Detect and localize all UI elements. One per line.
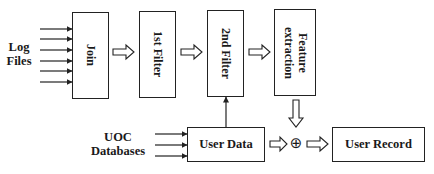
combine-to-user-record-arrow xyxy=(307,137,328,151)
feature-extraction-line-1: Feature xyxy=(296,27,309,79)
log-files-label: Log Files xyxy=(2,40,36,68)
join-label: Join xyxy=(84,44,97,66)
first-filter-box: 1st Filter xyxy=(139,11,176,98)
uoc-databases-label: UOC Databases xyxy=(86,130,150,158)
first-filter-label: 1st Filter xyxy=(151,31,164,77)
first-filter-to-second-filter-arrow xyxy=(181,45,202,59)
feature-extraction-box: Feature extraction xyxy=(274,9,316,96)
join-box: Join xyxy=(72,12,109,99)
log-files-line-2: Files xyxy=(2,54,36,68)
join-to-first-filter-arrow xyxy=(113,45,134,59)
combine-operator-icon: ⊕ xyxy=(288,134,304,152)
user-record-label: User Record xyxy=(345,137,412,152)
feature-extraction-text: Feature extraction xyxy=(282,27,309,79)
second-filter-to-feature-arrow xyxy=(249,45,270,59)
log-files-line-1: Log xyxy=(2,40,36,54)
user-record-box: User Record xyxy=(332,127,425,162)
uoc-input-arrows xyxy=(155,134,187,156)
uoc-databases-line-1: UOC xyxy=(86,130,150,144)
feature-to-combine-arrow xyxy=(289,100,303,127)
second-filter-label: 2nd Filter xyxy=(219,28,232,79)
uoc-databases-line-2: Databases xyxy=(86,144,150,158)
second-filter-box: 2nd Filter xyxy=(207,10,244,97)
feature-extraction-line-2: extraction xyxy=(282,27,295,79)
user-data-to-combine-arrow xyxy=(270,137,287,151)
user-data-box: User Data xyxy=(187,127,265,162)
user-data-label: User Data xyxy=(199,137,253,152)
log-input-arrows xyxy=(40,29,72,82)
